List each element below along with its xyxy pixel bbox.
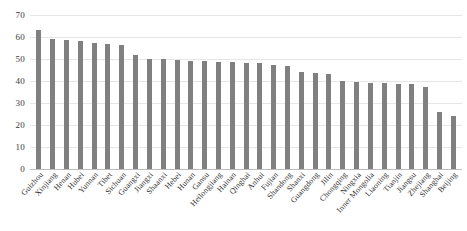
bar-slot xyxy=(239,15,253,169)
bar xyxy=(175,60,180,169)
bar-slot xyxy=(336,15,350,169)
bar-slot xyxy=(267,15,281,169)
bar xyxy=(271,65,276,170)
bar xyxy=(382,83,387,169)
bar xyxy=(423,87,428,170)
bar xyxy=(64,40,69,169)
bar-slot xyxy=(170,15,184,169)
bar-slot xyxy=(101,15,115,169)
bar xyxy=(354,82,359,169)
y-axis-tick-label: 40 xyxy=(16,76,25,86)
bar xyxy=(409,84,414,169)
y-axis-tick-label: 70 xyxy=(16,10,25,20)
bar xyxy=(202,61,207,169)
bar xyxy=(161,59,166,169)
bar-slot xyxy=(281,15,295,169)
y-axis-tick-label: 20 xyxy=(16,120,25,130)
bar xyxy=(299,72,304,169)
bar xyxy=(326,74,331,169)
bar xyxy=(50,39,55,169)
y-axis-tick-label: 10 xyxy=(16,142,25,152)
bar xyxy=(133,55,138,169)
bar-slot xyxy=(322,15,336,169)
y-axis-tick-label: 50 xyxy=(16,54,25,64)
bar-slot xyxy=(32,15,46,169)
bar-slot xyxy=(60,15,74,169)
bar-slot xyxy=(184,15,198,169)
bar xyxy=(257,63,262,169)
bar-slot xyxy=(253,15,267,169)
y-axis-tick-label: 60 xyxy=(16,32,25,42)
bar xyxy=(78,41,83,169)
x-axis-labels: GuizhouXinjiangHenanHubeiYunnanTibetSich… xyxy=(30,170,462,231)
bar xyxy=(230,62,235,169)
bar xyxy=(313,73,318,169)
bar-slot xyxy=(433,15,447,169)
x-axis: GuizhouXinjiangHenanHubeiYunnanTibetSich… xyxy=(30,170,462,231)
bar xyxy=(119,45,124,169)
bar-slot xyxy=(405,15,419,169)
x-label-slot: Beijing xyxy=(446,170,460,231)
bar-slot xyxy=(364,15,378,169)
bar-slot xyxy=(156,15,170,169)
bar-slot xyxy=(73,15,87,169)
bar xyxy=(36,30,41,169)
bar-slot xyxy=(198,15,212,169)
bar-chart: 706050403020100 GuizhouXinjiangHenanHube… xyxy=(0,0,467,231)
bar xyxy=(216,62,221,169)
bar-slot xyxy=(419,15,433,169)
bar-slot xyxy=(377,15,391,169)
bar xyxy=(451,116,456,169)
bar-series xyxy=(30,15,462,169)
bar-slot xyxy=(350,15,364,169)
bar-slot xyxy=(115,15,129,169)
bar xyxy=(437,112,442,169)
bar xyxy=(105,44,110,169)
plot-area xyxy=(30,15,462,169)
y-axis-tick-label: 30 xyxy=(16,98,25,108)
bar-slot xyxy=(87,15,101,169)
bar-slot xyxy=(308,15,322,169)
bar-slot xyxy=(212,15,226,169)
bar xyxy=(285,66,290,169)
bar xyxy=(92,43,97,170)
bar-slot xyxy=(446,15,460,169)
bar xyxy=(340,81,345,169)
bar-slot xyxy=(294,15,308,169)
bar xyxy=(188,61,193,169)
bar xyxy=(396,84,401,169)
bar-slot xyxy=(143,15,157,169)
bar xyxy=(147,59,152,169)
y-axis-tick-label: 0 xyxy=(20,164,25,174)
bar-slot xyxy=(46,15,60,169)
bar xyxy=(244,63,249,169)
bar xyxy=(368,83,373,169)
bar-slot xyxy=(225,15,239,169)
bar-slot xyxy=(129,15,143,169)
bar-slot xyxy=(391,15,405,169)
